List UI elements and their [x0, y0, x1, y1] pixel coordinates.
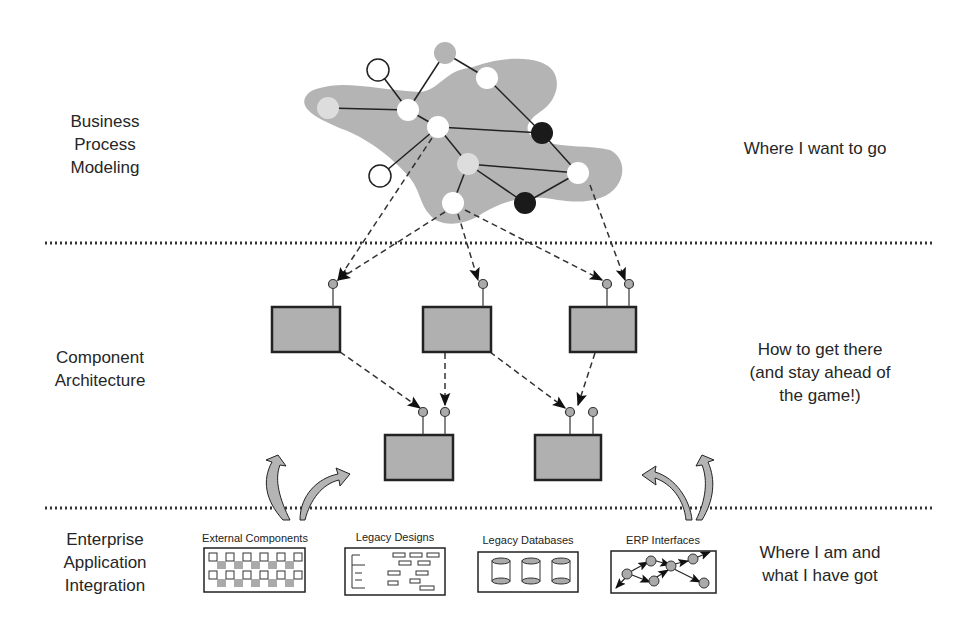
label-component-architecture: Component Architecture: [35, 346, 165, 392]
caption-erp-interfaces: ERP Interfaces: [605, 534, 721, 546]
label-line: Business: [45, 110, 165, 133]
label-line: the game!): [725, 384, 915, 407]
erp-interfaces-box: [611, 551, 716, 593]
process-blob: [304, 59, 622, 224]
label-line: Modeling: [45, 156, 165, 179]
caption-external-components: External Components: [190, 532, 320, 544]
label-where-i-am: Where I am and what I have got: [735, 541, 905, 587]
curved-arrows: [266, 455, 714, 520]
caption-legacy-databases: Legacy Databases: [470, 534, 586, 546]
label-line: Where I am and: [735, 541, 905, 564]
caption-legacy-designs: Legacy Designs: [335, 531, 455, 543]
label-line: Enterprise: [40, 528, 170, 551]
label-where-i-want-to-go: Where I want to go: [720, 137, 910, 160]
label-business-process-modeling: Business Process Modeling: [45, 110, 165, 179]
label-line: Architecture: [35, 369, 165, 392]
legacy-designs-box: [345, 548, 445, 595]
external-components-box: [204, 548, 305, 592]
label-line: Application: [40, 551, 170, 574]
label-line: How to get there: [725, 338, 915, 361]
label-enterprise-application-integration: Enterprise Application Integration: [40, 528, 170, 597]
ports: [329, 280, 634, 436]
label-line: Where I want to go: [720, 137, 910, 160]
label-line: Component: [35, 346, 165, 369]
label-line: Integration: [40, 574, 170, 597]
legacy-databases-box: [478, 552, 578, 592]
label-how-to-get-there: How to get there (and stay ahead of the …: [725, 338, 915, 407]
label-line: Process: [45, 133, 165, 156]
label-line: (and stay ahead of: [725, 361, 915, 384]
label-line: what I have got: [735, 564, 905, 587]
